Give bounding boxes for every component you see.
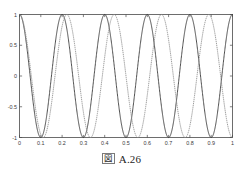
- x-tick-label: 0.7: [165, 140, 173, 146]
- x-axis-ticks: 00.10.20.30.40.50.60.70.80.91: [18, 15, 234, 146]
- y-tick-label: -1: [12, 135, 17, 141]
- x-tick-label: 0.4: [101, 140, 109, 146]
- y-axis-ticks: -1-0.500.51: [8, 12, 233, 141]
- x-tick-label: 0.1: [37, 140, 45, 146]
- y-tick-label: 0.5: [10, 42, 18, 48]
- x-tick-label: 0: [18, 140, 21, 146]
- figure-container: 00.10.20.30.40.50.60.70.80.91 -1-0.500.5…: [0, 0, 243, 171]
- x-tick-label: 0.3: [80, 140, 88, 146]
- plot-area: 00.10.20.30.40.50.60.70.80.91 -1-0.500.5…: [0, 0, 243, 146]
- figure-marker-icon: 図: [102, 153, 115, 165]
- figure-caption-text: A.26: [119, 153, 142, 165]
- y-tick-label: 0: [14, 73, 17, 79]
- x-tick-label: 0.9: [207, 140, 215, 146]
- x-tick-label: 0.2: [58, 140, 66, 146]
- x-tick-label: 0.8: [186, 140, 194, 146]
- y-tick-label: -0.5: [8, 104, 17, 110]
- chart-svg: 00.10.20.30.40.50.60.70.80.91 -1-0.500.5…: [0, 0, 243, 146]
- y-tick-label: 1: [14, 12, 17, 18]
- x-tick-label: 0.6: [144, 140, 152, 146]
- x-tick-label: 1: [231, 140, 234, 146]
- figure-caption: 図 A.26: [0, 146, 243, 171]
- x-tick-label: 0.5: [122, 140, 130, 146]
